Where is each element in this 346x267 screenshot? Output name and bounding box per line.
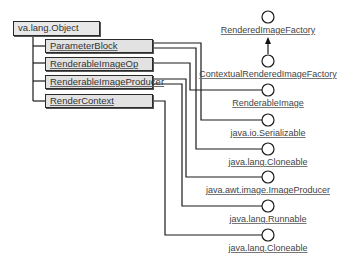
class-java-lang-object: va.lang.Object: [13, 21, 100, 36]
interface-contextualrenderedimagefactory: ContextualRenderedImageFactory: [199, 69, 337, 79]
class-parameterblock: ParameterBlock: [45, 39, 153, 53]
interface-serializable: java.io.Serializable: [230, 128, 305, 138]
interface-runnable: java.lang.Runnable: [229, 214, 306, 224]
class-label: ParameterBlock: [50, 40, 118, 51]
class-label: RenderableImageOp: [50, 58, 138, 69]
class-label: RenderContext: [50, 95, 114, 106]
interface-imageproducer: java.awt.image.ImageProducer: [206, 185, 330, 195]
inheritance-arrow-icon: [265, 37, 271, 44]
interface-cloneable-2: java.lang.Cloneable: [228, 243, 307, 253]
interface-renderedimagefactory: RenderedImageFactory: [221, 25, 316, 35]
interface-renderableimage: RenderableImage: [232, 98, 304, 108]
class-renderableimageproducer: RenderableImageProducer: [45, 75, 153, 89]
interface-cloneable: java.lang.Cloneable: [228, 157, 307, 167]
class-label: va.lang.Object: [18, 22, 79, 33]
class-rendercontext: RenderContext: [45, 94, 153, 108]
class-renderableimageop: RenderableImageOp: [45, 57, 153, 71]
class-label: RenderableImageProducer: [50, 76, 164, 87]
uml-diagram: va.lang.Object ParameterBlock Renderable…: [0, 0, 346, 267]
